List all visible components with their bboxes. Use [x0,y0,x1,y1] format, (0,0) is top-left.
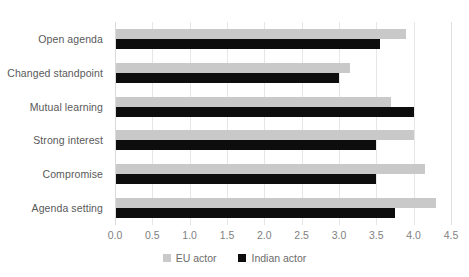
bar-eu-actor [116,130,414,140]
bar-indian-actor [116,174,376,184]
axis-tick-label: 2.5 [294,229,309,241]
axis-tick-label: 4.0 [406,229,421,241]
category-label: Agenda setting [32,202,103,214]
chart-legend: EU actorIndian actor [0,252,469,264]
legend-label: Indian actor [251,252,306,264]
axis-tick-label: 1.0 [182,229,197,241]
legend-label: EU actor [176,252,217,264]
bar-eu-actor [116,97,391,107]
category-label: Open agenda [38,33,103,45]
gridline [451,22,452,225]
axis-tick-label: 1.5 [220,229,235,241]
legend-swatch-icon [163,254,171,262]
bar-indian-actor [116,140,376,150]
axis-tick-label: 0.5 [145,229,160,241]
bar-eu-actor [116,198,436,208]
legend-swatch-icon [238,254,246,262]
category-axis-labels: Open agendaChanged standpointMutual lear… [0,22,109,225]
gridline [339,22,340,225]
axis-tick-label: 3.5 [369,229,384,241]
plot-area [115,22,451,225]
gridline [376,22,377,225]
bar-indian-actor [116,107,414,117]
value-axis-line [115,22,116,225]
gridline [414,22,415,225]
gridline [264,22,265,225]
axis-tick-label: 3.0 [332,229,347,241]
axis-tick-label: 4.5 [444,229,459,241]
category-label: Compromise [42,168,103,180]
value-axis-tick-labels: 0.00.51.01.52.02.53.03.54.04.5 [115,229,451,245]
bar-eu-actor [116,29,406,39]
legend-item: Indian actor [238,252,306,264]
category-label: Strong interest [33,134,103,146]
axis-tick-label: 2.0 [257,229,272,241]
category-label: Mutual learning [30,101,103,113]
bar-chart: Open agendaChanged standpointMutual lear… [0,0,469,277]
bar-indian-actor [116,73,339,83]
category-label: Changed standpoint [7,67,103,79]
gridline [152,22,153,225]
bar-indian-actor [116,39,380,49]
bar-indian-actor [116,208,395,218]
legend-item: EU actor [163,252,217,264]
gridline [227,22,228,225]
gridline [190,22,191,225]
gridline [302,22,303,225]
bar-eu-actor [116,164,425,174]
bar-eu-actor [116,63,350,73]
axis-tick-label: 0.0 [108,229,123,241]
